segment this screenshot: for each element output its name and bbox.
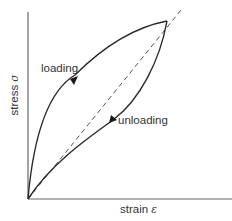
x-axis-label-text: strain [120, 203, 148, 215]
unloading-arrow-icon [109, 115, 117, 123]
hysteresis-diagram [0, 0, 232, 221]
unloading-label: unloading [118, 115, 168, 127]
y-axis-label-text: stress [8, 85, 20, 116]
loading-label: loading [41, 63, 78, 75]
x-axis-label: strain ε [120, 204, 157, 216]
y-axis-label: stress σ [9, 74, 21, 115]
unloading-curve [28, 21, 167, 199]
epsilon-symbol: ε [151, 203, 157, 215]
sigma-symbol: σ [8, 74, 20, 81]
